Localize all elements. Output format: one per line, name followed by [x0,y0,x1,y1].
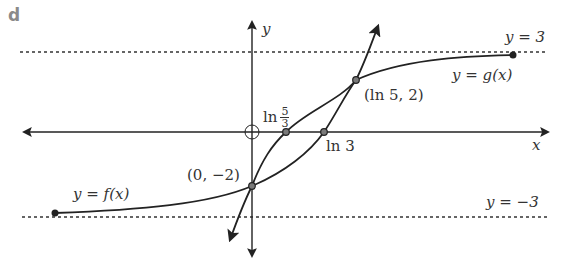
point-label-ln5over3: ln53 [263,106,289,129]
point-ln5-2 [353,77,360,84]
part-label: d [8,5,20,25]
point-label-0-neg2: (0, −2) [187,168,240,183]
ln-prefix: ln [263,108,277,126]
f-endpoint [52,210,59,217]
fraction-denominator: 3 [280,118,289,129]
curve-label-g: y = g(x) [452,68,512,83]
point-0-neg2 [249,183,256,190]
fraction: 53 [280,106,289,129]
curve-label-f: y = f(x) [73,187,129,202]
y-axis-label: y [262,22,270,37]
point-label-ln3: ln 3 [326,139,355,154]
point-label-ln5-2: (ln 5, 2) [364,88,424,103]
asymptote-label-yneg3: y = −3 [486,195,539,210]
asymptote-label-y3: y = 3 [505,30,545,45]
graph-figure: d y x y = 3 y = −3 y = g(x) y = f(x) (0,… [0,0,569,273]
x-axis-label: x [532,138,540,153]
point-ln3 [321,129,328,136]
g-endpoint [510,52,517,59]
